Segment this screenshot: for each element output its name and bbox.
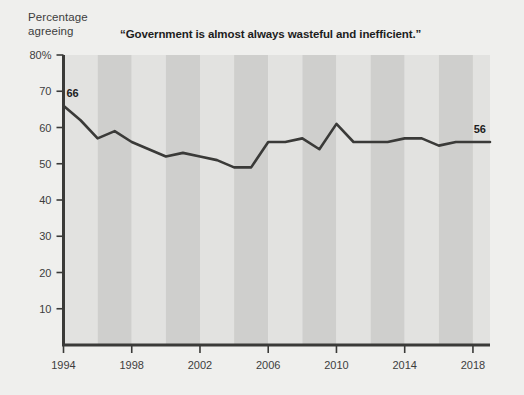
y-axis-tick-label: 50 xyxy=(39,158,51,170)
y-axis-tick-label: 60 xyxy=(39,122,51,134)
x-axis-tick-labels: 1994199820022006201020142018 xyxy=(51,359,485,371)
endpoint-value-label: 56 xyxy=(474,123,486,135)
background-band xyxy=(234,55,268,345)
endpoint-value-label: 66 xyxy=(67,87,79,99)
y-axis-tick-label: 20 xyxy=(39,267,51,279)
chart-figure: Percentage agreeing “Government is almos… xyxy=(0,0,524,395)
y-axis-tick-label: 70 xyxy=(39,85,51,97)
x-axis-tick-label: 2014 xyxy=(392,359,416,371)
background-band xyxy=(302,55,336,345)
x-axis-tick-label: 2002 xyxy=(188,359,212,371)
background-band xyxy=(473,55,490,345)
x-axis-tick-label: 1998 xyxy=(119,359,143,371)
y-axis-tick-labels: 1020304050607080% xyxy=(29,49,51,315)
x-axis-tick-label: 2018 xyxy=(461,359,485,371)
background-band xyxy=(336,55,370,345)
background-band xyxy=(439,55,473,345)
background-band xyxy=(268,55,302,345)
y-axis-tick-label: 80% xyxy=(29,49,51,61)
background-bands xyxy=(64,55,491,345)
background-band xyxy=(98,55,132,345)
x-axis-tick-label: 2010 xyxy=(324,359,348,371)
y-axis-tick-label: 30 xyxy=(39,230,51,242)
background-band xyxy=(132,55,166,345)
line-chart-svg: 1020304050607080% 1994199820022006201020… xyxy=(0,0,524,395)
y-axis-tick-label: 40 xyxy=(39,194,51,206)
plot-area: 1020304050607080% 1994199820022006201020… xyxy=(0,0,524,395)
background-band xyxy=(166,55,200,345)
x-axis-tick-label: 1994 xyxy=(51,359,75,371)
background-band xyxy=(200,55,234,345)
background-band xyxy=(371,55,405,345)
background-band xyxy=(405,55,439,345)
x-axis-tick-label: 2006 xyxy=(256,359,280,371)
y-axis-tick-label: 10 xyxy=(39,303,51,315)
